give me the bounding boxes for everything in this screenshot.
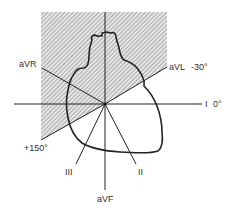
hexaxial-diagram: aVR aVL -30° I 0° +150° III II aVF: [0, 0, 230, 208]
label-II: II: [138, 167, 143, 177]
lead-II-axis: [105, 104, 136, 164]
label-aVR: aVR: [19, 59, 37, 69]
label-plus150: +150°: [24, 143, 48, 153]
shaded-axis-region: [41, 12, 167, 140]
label-III: III: [65, 167, 73, 177]
label-aVL: aVL: [169, 62, 185, 72]
label-aVF: aVF: [97, 194, 114, 204]
label-aVL-angle: -30°: [191, 62, 208, 72]
label-I: I: [205, 99, 208, 109]
label-I-angle: 0°: [213, 99, 222, 109]
axis-origin: [103, 102, 106, 105]
